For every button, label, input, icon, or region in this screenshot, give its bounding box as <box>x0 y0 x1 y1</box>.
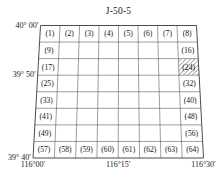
latitude-label-middle: 39° 50′ <box>0 71 36 79</box>
cell-label-64[interactable]: (64) <box>186 145 199 154</box>
cell-label-2[interactable]: (2) <box>65 29 74 38</box>
cell-label-4[interactable]: (4) <box>104 29 113 38</box>
cell-label-40[interactable]: (40) <box>184 96 197 105</box>
cell-label-1[interactable]: (1) <box>45 29 54 38</box>
cell-label-60[interactable]: (60) <box>101 145 114 154</box>
cell-label-59[interactable]: (59) <box>80 145 93 154</box>
longitude-label-right: 116°30′ <box>174 161 221 169</box>
cell-label-24[interactable]: (24) <box>182 63 195 72</box>
cell-label-58[interactable]: (58) <box>59 145 72 154</box>
cell-label-25[interactable]: (25) <box>41 79 54 88</box>
cell-label-63[interactable]: (63) <box>165 145 178 154</box>
latitude-label-top: 40° 00′ <box>0 22 39 30</box>
cell-label-32[interactable]: (32) <box>183 79 196 88</box>
cell-label-6[interactable]: (6) <box>143 29 152 38</box>
cell-label-7[interactable]: (7) <box>163 29 172 38</box>
cell-label-8[interactable]: (8) <box>183 29 192 38</box>
cell-label-61[interactable]: (61) <box>123 145 136 154</box>
cell-label-5[interactable]: (5) <box>124 29 133 38</box>
grid-lines <box>33 26 204 159</box>
cell-label-17[interactable]: (17) <box>42 63 55 72</box>
cell-label-49[interactable]: (49) <box>39 129 52 138</box>
cell-label-9[interactable]: (9) <box>45 46 54 55</box>
cell-label-3[interactable]: (3) <box>85 29 94 38</box>
longitude-label-left: 116°00′ <box>3 161 63 169</box>
cell-label-48[interactable]: (48) <box>185 112 198 121</box>
map-sheet-index-diagram: J-50-5 (1)(2)(3)(4)(5)(6)(7)(8)(9)(16)(1… <box>0 0 220 183</box>
cell-label-62[interactable]: (62) <box>144 145 157 154</box>
cell-label-56[interactable]: (56) <box>185 129 198 138</box>
longitude-label-center: 116°15′ <box>88 161 148 169</box>
cell-label-33[interactable]: (33) <box>40 96 53 105</box>
cell-label-16[interactable]: (16) <box>182 46 195 55</box>
cell-label-41[interactable]: (41) <box>39 112 52 121</box>
cell-label-57[interactable]: (57) <box>38 145 51 154</box>
